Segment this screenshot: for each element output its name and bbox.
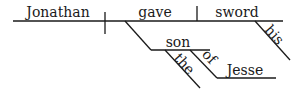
word-his: his <box>262 22 288 48</box>
word-jesse: Jesse <box>225 62 264 78</box>
word-jonathan: Jonathan <box>24 4 89 20</box>
word-sword: sword <box>215 4 258 20</box>
indirect-object-diagonal <box>125 21 151 50</box>
sentence-diagram: Jonathan gave sword son Jesse his the of <box>0 0 308 93</box>
word-son: son <box>166 34 191 50</box>
word-gave: gave <box>138 4 172 20</box>
